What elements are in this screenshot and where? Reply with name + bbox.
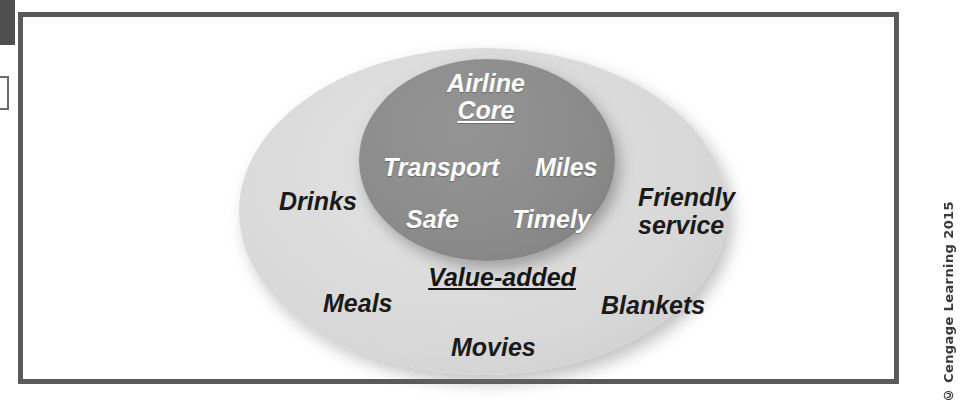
concentric-ellipse-diagram: Airline Core Transport Miles Safe Timely… (23, 17, 894, 379)
page-edge-margin-tab (0, 76, 9, 110)
value-added-label-blankets: Blankets (601, 291, 705, 319)
value-added-label-friendly-service-line1: Friendly (638, 183, 733, 211)
value-added-heading: Value-added (412, 263, 592, 292)
core-label-safe: Safe (406, 205, 459, 233)
value-added-label-friendly-service: Friendly service (638, 183, 733, 239)
value-added-heading-text: Value-added (428, 263, 576, 292)
figure-frame: Airline Core Transport Miles Safe Timely… (18, 12, 899, 384)
value-added-label-movies: Movies (451, 333, 536, 361)
core-label-transport: Transport (383, 153, 499, 181)
value-added-label-drinks: Drinks (279, 187, 357, 215)
core-label-miles: Miles (535, 153, 598, 181)
core-heading-line2-text: Core (458, 96, 515, 125)
value-added-label-friendly-service-line2: service (638, 211, 733, 239)
core-label-timely: Timely (512, 205, 591, 233)
core-heading-line2: Core (411, 96, 561, 125)
copyright-credit: © Cengage Learning 2015 (941, 201, 956, 403)
page-edge-bleed-block (0, 0, 15, 45)
core-heading: Airline Core (411, 69, 561, 125)
value-added-label-meals: Meals (323, 289, 392, 317)
core-heading-line1: Airline (411, 69, 561, 98)
